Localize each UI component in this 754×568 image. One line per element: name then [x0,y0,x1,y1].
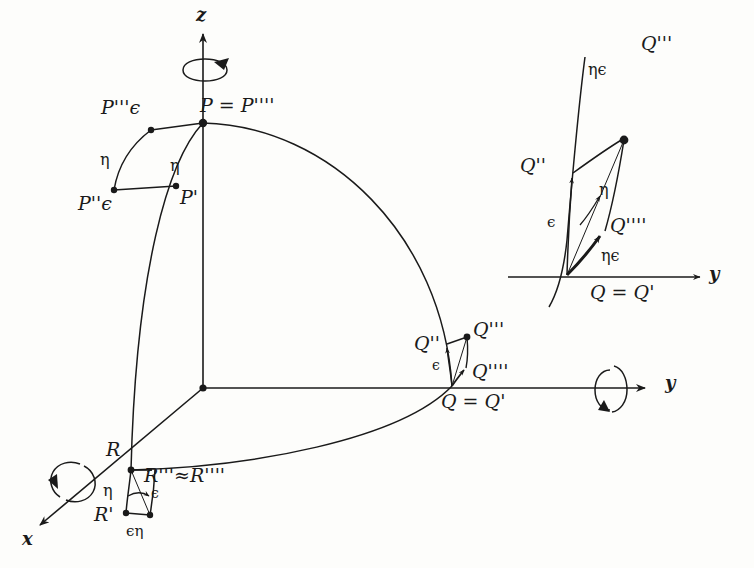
point-label-R: R [106,440,120,459]
detail-Q-main [447,334,470,386]
arc-label-eps-eta-R: ϵη [126,524,143,539]
detail-P [111,119,207,193]
x-rotation-arrow-icon [48,462,95,501]
axis-x [40,388,203,525]
axis-label-y: y [665,374,675,392]
inset-point-label-Q3: Q''' [641,34,672,53]
arc-label-eps-Q: ϵ [432,358,440,372]
point-label-P3-eps: P'''ϵ [101,98,140,117]
inset-arc-label-eta-eps-bottom: ηϵ [601,248,620,264]
z-rotation-arrow-icon [183,58,229,81]
arc-label-eta-left: η [100,152,110,168]
point-label-R34: R'''≈R'''' [144,466,225,485]
y-rotation-arrow-icon [595,366,627,412]
point-label-R-prime: R' [94,505,114,524]
inset-axis-label-y: y [709,265,719,283]
point-label-P2-eps: P''ϵ [78,194,112,213]
point-label-P: P = P'''' [200,96,274,115]
point-label-Q4: Q'''' [472,362,508,381]
point-label-Q2: Q'' [414,334,440,353]
inset-point-label-Q4: Q'''' [610,216,646,235]
arc-label-eps-R: ϵ [151,486,159,500]
figure-canvas: z y x P = P'''' P'''ϵ P''ϵ P' η η Q = Q'… [0,0,754,568]
inset-point-label-Q2: Q'' [520,156,546,175]
arc-label-eta-R: η [103,483,113,499]
axis-label-x: x [22,530,33,548]
inset-arc-label-eta-eps-top: ηϵ [588,62,607,78]
point-label-Q3: Q''' [473,320,504,339]
axis-label-z: z [196,6,206,24]
inset-arc-label-eps: ϵ [547,215,555,230]
inset-arc-label-eta: η [599,182,609,198]
arc-label-eta-right: η [170,158,180,174]
point-label-Q: Q = Q' [441,392,505,411]
point-label-P-prime: P' [180,188,198,207]
origin-dot [199,384,206,391]
inset-point-label-Q: Q = Q' [590,283,654,302]
arc-R-to-Q [131,386,452,470]
